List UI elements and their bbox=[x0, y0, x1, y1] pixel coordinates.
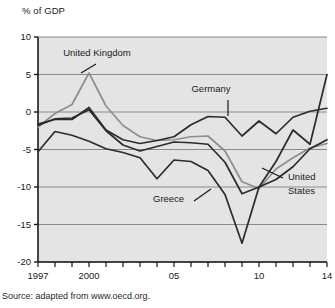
series-annotation-label: United Kingdom bbox=[63, 47, 131, 58]
series-annotation-label: Germany bbox=[191, 83, 230, 94]
x-axis-tick-label: 14 bbox=[322, 270, 333, 281]
source-note: Source: adapted from www.oecd.org. bbox=[2, 291, 150, 301]
x-axis-tick-label: 1997 bbox=[27, 270, 48, 281]
x-axis-tick-label: 2000 bbox=[78, 270, 99, 281]
y-axis-tick-label: -20 bbox=[17, 256, 31, 267]
x-axis-tick-label: 05 bbox=[169, 270, 180, 281]
series-annotation-label: United bbox=[288, 171, 315, 182]
y-axis-tick-label: -10 bbox=[17, 181, 31, 192]
y-axis-tick-label: 5 bbox=[26, 69, 31, 80]
series-annotation-label: Greece bbox=[153, 193, 184, 204]
series-annotation-label: States bbox=[288, 185, 315, 196]
y-axis-title: % of GDP bbox=[22, 5, 65, 16]
line-chart-svg: 1050-5-10-15-2019972000051014United King… bbox=[0, 0, 335, 290]
x-axis-tick-label: 10 bbox=[254, 270, 265, 281]
chart-figure: % of GDP 1050-5-10-15-2019972000051014Un… bbox=[0, 0, 335, 308]
y-axis-tick-label: 0 bbox=[26, 106, 31, 117]
y-axis-tick-label: -15 bbox=[17, 219, 31, 230]
y-axis-tick-label: 10 bbox=[20, 31, 31, 42]
plot-area: 1050-5-10-15-2019972000051014United King… bbox=[17, 31, 332, 281]
y-axis-tick-label: -5 bbox=[23, 144, 31, 155]
